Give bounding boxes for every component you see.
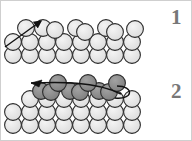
panel-1-group (5, 20, 144, 64)
sphere-lattice-diagram (1, 1, 192, 141)
sphere-light (77, 24, 94, 41)
panel-2-adlayer-row (33, 83, 118, 101)
sphere-dark (80, 75, 97, 92)
sphere-light (47, 22, 64, 39)
sphere-light (127, 21, 144, 38)
sphere-light (124, 91, 141, 108)
panel-label-1: 1 (171, 7, 182, 28)
panel-2-group (5, 75, 141, 134)
sphere-light (107, 24, 124, 41)
figure-container: 1 2 (0, 0, 192, 141)
sphere-dark (109, 75, 126, 92)
panel-label-2: 2 (171, 81, 182, 102)
sphere-light (5, 104, 22, 121)
